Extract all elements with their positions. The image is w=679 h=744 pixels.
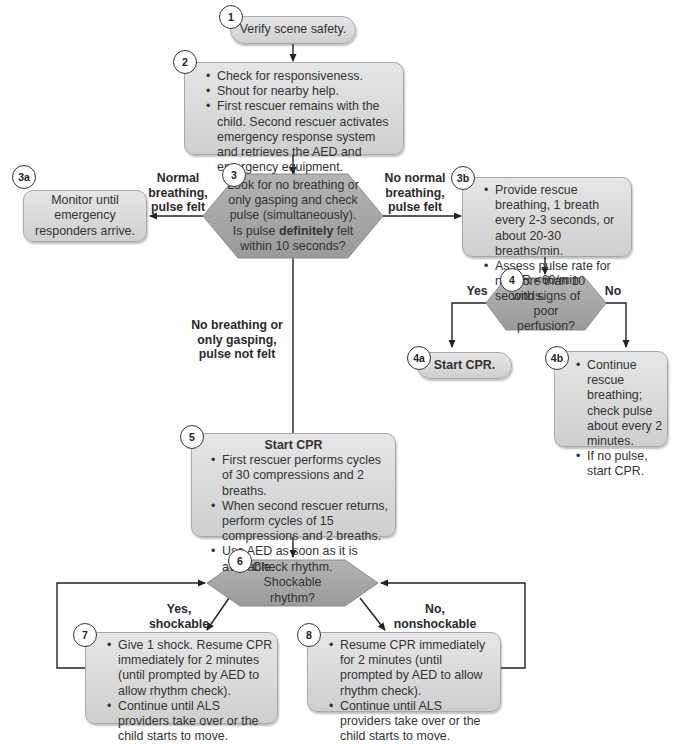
step-3a-badge: 3a [12, 165, 36, 189]
edge-label-no-normal-breathing: No normal breathing, pulse felt [381, 171, 449, 215]
step-4b-list: Continue rescue breathing; check pulse a… [573, 358, 663, 480]
step-4-badge: 4 [500, 268, 524, 292]
edge-label-no: No [601, 284, 625, 299]
step-7-badge: 7 [73, 623, 97, 647]
step-5-start-cpr: Start CPR First rescuer performs cycles … [191, 433, 396, 537]
step-8-item: Continue until ALS providers take over o… [340, 699, 496, 744]
edge-label-nonshockable: No, nonshockable [385, 602, 485, 631]
step-3b-item: Provide rescue breathing, 1 breath every… [495, 183, 625, 259]
step-7-item: Continue until ALS providers take over o… [118, 699, 273, 744]
step-5-badge: 5 [180, 425, 204, 449]
step-8-resume-cpr: Resume CPR immediately for 2 minutes (un… [307, 632, 501, 712]
step-7-give-shock: Give 1 shock. Resume CPR immediately for… [85, 632, 278, 724]
step-4a-badge: 4a [407, 346, 431, 370]
step-5-item: First rescuer performs cycles of 30 comp… [222, 453, 389, 499]
step-3a-text: Monitor until emergency responders arriv… [32, 193, 138, 239]
step-4a-text: Start CPR. [434, 358, 495, 373]
step-3b-rescue-breathing: Provide rescue breathing, 1 breath every… [462, 177, 632, 257]
step-2-item: Check for responsiveness. [217, 69, 395, 84]
step-6-badge: 6 [228, 549, 252, 573]
step-3-text-bold: definitely [279, 224, 333, 238]
step-2-item: Shout for nearby help. [217, 84, 395, 99]
edge-label-shockable: Yes, shockable [144, 602, 214, 631]
edge-label-yes: Yes [462, 284, 492, 299]
step-8-item: Resume CPR immediately for 2 minutes (un… [340, 638, 496, 699]
step-5-title: Start CPR [198, 438, 389, 453]
step-2-check-responsiveness: Check for responsiveness. Shout for near… [184, 62, 404, 155]
step-8-list: Resume CPR immediately for 2 minutes (un… [326, 638, 496, 744]
step-1-text: Verify scene safety. [240, 22, 347, 37]
step-4b-item: If no pulse, start CPR. [587, 449, 663, 479]
step-3a-monitor: Monitor until emergency responders arriv… [23, 190, 147, 242]
step-4a-start-cpr: Start CPR. [417, 352, 512, 379]
step-3b-badge: 3b [451, 166, 475, 190]
step-7-item: Give 1 shock. Resume CPR immediately for… [118, 638, 273, 699]
step-2-item: First rescuer remains with the child. Se… [217, 99, 395, 175]
step-3-decision-text: Look for no breathing or only gasping an… [224, 176, 362, 256]
edge-label-no-breathing: No breathing or only gasping, pulse not … [189, 318, 285, 362]
step-2-badge: 2 [173, 50, 197, 74]
step-2-list: Check for responsiveness. Shout for near… [203, 69, 395, 175]
step-7-list: Give 1 shock. Resume CPR immediately for… [104, 638, 273, 744]
edge-label-normal-breathing: Normal breathing, pulse felt [148, 171, 208, 215]
step-6-text: Check rhythm. Shockable rhythm? [240, 560, 345, 606]
step-4b-continue-rescue-breathing: Continue rescue breathing; check pulse a… [554, 351, 668, 447]
step-4b-badge: 4b [545, 346, 569, 370]
step-6-decision-text: Check rhythm. Shockable rhythm? [240, 562, 345, 604]
step-3-badge: 3 [222, 163, 246, 187]
step-5-item: When second rescuer returns, perform cyc… [222, 499, 389, 545]
step-4b-item: Continue rescue breathing; check pulse a… [587, 358, 663, 449]
step-1-verify-scene-safety: Verify scene safety. [230, 16, 356, 44]
step-1-badge: 1 [219, 5, 243, 29]
step-8-badge: 8 [297, 623, 321, 647]
